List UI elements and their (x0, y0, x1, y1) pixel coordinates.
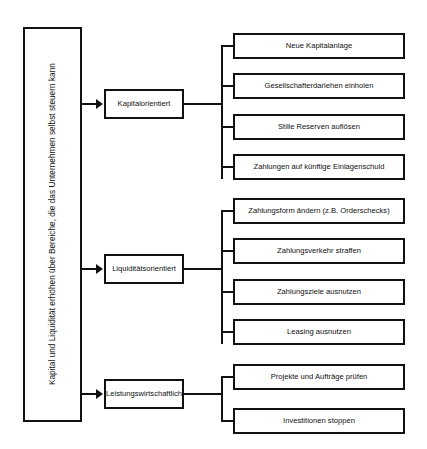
category-3-stem-line (184, 393, 223, 395)
root-to-category-3-arrow-icon (96, 389, 103, 399)
category-box-leistungswirtschaftlich: Leistungswirtschaftlich (104, 379, 184, 409)
measure-box: Projekte und Aufträge prüfen (233, 364, 405, 390)
category-label: Leistungswirtschaftlich (106, 390, 182, 399)
group-1-trunk-line (221, 45, 223, 179)
diagram-canvas: Kapital und Liquidität erhöhen über Bere… (0, 0, 427, 449)
measure-label: Projekte und Aufträge prüfen (271, 373, 368, 382)
measure-label: Zahlungen auf künftige Einlagenschuld (254, 163, 385, 172)
measure-box: Leasing ausnutzen (233, 319, 405, 345)
measure-box: Investitionen stoppen (233, 408, 405, 434)
root-to-category-2-line (82, 268, 97, 270)
category-label: Liquiditätsorientiert (112, 265, 176, 274)
measure-box: Stille Reserven auflösen (233, 114, 405, 140)
category-label: Kapitalorientiert (118, 100, 171, 109)
measure-label: Leasing ausnutzen (287, 328, 351, 337)
group-2-trunk-line (221, 210, 223, 344)
measure-label: Zahlungsziele ausnutzen (277, 288, 361, 297)
category-2-stem-line (184, 268, 223, 270)
root-box-label: Kapital und Liquidität erhöhen über Bere… (48, 64, 56, 386)
root-box: Kapital und Liquidität erhöhen über Bere… (23, 27, 82, 422)
category-1-stem-line (184, 103, 223, 105)
measure-box: Zahlungen auf künftige Einlagenschuld (233, 154, 405, 180)
root-to-category-2-arrow-icon (96, 264, 103, 274)
root-to-category-1-arrow-icon (96, 99, 103, 109)
group-3-trunk-line (221, 376, 223, 422)
measure-label: Neue Kapitalanlage (286, 42, 352, 51)
measure-label: Investitionen stoppen (283, 417, 355, 426)
measure-label: Stille Reserven auflösen (278, 123, 360, 132)
category-box-liquiditaetsorientiert: Liquiditätsorientiert (104, 254, 184, 284)
measure-box: Zahlungsverkehr straffen (233, 238, 405, 264)
measure-box: Zahlungsziele ausnutzen (233, 279, 405, 305)
measure-box: Gesellschafterdarlehen einholen (233, 73, 405, 99)
measure-box: Neue Kapitalanlage (233, 33, 405, 59)
measure-box: Zahlungsform ändern (z.B. Orderschecks) (233, 198, 405, 224)
root-to-category-3-line (82, 393, 97, 395)
category-box-kapitalorientiert: Kapitalorientiert (104, 89, 184, 119)
measure-label: Zahlungsform ändern (z.B. Orderschecks) (248, 207, 389, 216)
measure-label: Gesellschafterdarlehen einholen (265, 82, 374, 91)
root-to-category-1-line (82, 103, 97, 105)
measure-label: Zahlungsverkehr straffen (277, 247, 361, 256)
